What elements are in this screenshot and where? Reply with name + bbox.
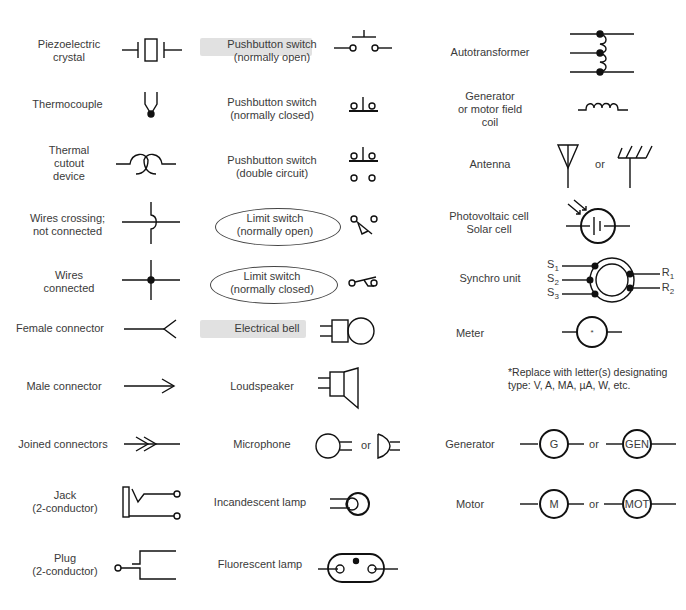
label-male-connector: Male connector bbox=[18, 380, 110, 393]
incandescent-lamp-icon bbox=[328, 490, 374, 518]
pushbutton-double-icon bbox=[348, 144, 382, 184]
label-photovoltaic-cell: Photovoltaic cell Solar cell bbox=[434, 210, 544, 236]
label-generator: Generator bbox=[440, 438, 500, 451]
label-motor: Motor bbox=[440, 498, 500, 511]
loudspeaker-icon bbox=[316, 366, 366, 410]
plug-icon bbox=[114, 548, 180, 582]
label-female-connector: Female connector bbox=[10, 322, 110, 335]
meter-footnote: *Replace with letter(s) designating type… bbox=[508, 366, 684, 392]
label-thermal-cutout: Thermal cutout device bbox=[30, 144, 108, 183]
label-pushbutton-nc: Pushbutton switch (normally closed) bbox=[222, 96, 322, 122]
limit-switch-no-icon bbox=[348, 212, 382, 240]
label-field-coil: Generator or motor field coil bbox=[440, 90, 540, 129]
label-jack: Jack (2-conductor) bbox=[25, 489, 105, 515]
label-pushbutton-double: Pushbutton switch (double circuit) bbox=[222, 154, 322, 180]
female-connector-icon bbox=[122, 318, 182, 340]
fluorescent-lamp-icon bbox=[316, 552, 400, 584]
label-wires-crossing: Wires crossing; not connected bbox=[20, 212, 115, 238]
thermocouple-icon bbox=[140, 90, 170, 122]
synchro-s3: S3 bbox=[546, 286, 560, 303]
generator-letter-long: GEN bbox=[624, 438, 650, 451]
or-text-antenna: or bbox=[590, 158, 610, 171]
or-text-microphone: or bbox=[356, 439, 376, 452]
label-fluorescent-lamp: Fluorescent lamp bbox=[210, 558, 310, 571]
thermal-cutout-icon bbox=[114, 150, 194, 180]
label-joined-connectors: Joined connectors bbox=[18, 438, 108, 451]
label-thermocouple: Thermocouple bbox=[20, 98, 115, 111]
autotransformer-icon bbox=[568, 28, 638, 80]
label-wires-connected: Wires connected bbox=[30, 269, 108, 295]
label-loudspeaker: Loudspeaker bbox=[222, 380, 302, 393]
wires-connected-icon bbox=[120, 258, 184, 302]
field-coil-icon bbox=[576, 98, 632, 114]
joined-connectors-icon bbox=[122, 434, 184, 454]
label-limit-switch-no: Limit switch (normally open) bbox=[225, 212, 325, 238]
label-limit-switch-nc: Limit switch (normally closed) bbox=[222, 270, 322, 296]
label-plug: Plug (2-conductor) bbox=[25, 552, 105, 578]
label-pushbutton-no: Pushbutton switch (normally open) bbox=[222, 38, 322, 64]
piezoelectric-crystal-icon bbox=[120, 36, 190, 66]
label-antenna: Antenna bbox=[440, 158, 540, 171]
pushbutton-no-icon bbox=[332, 28, 398, 58]
jack-icon bbox=[120, 484, 186, 520]
or-text-generator: or bbox=[584, 438, 604, 451]
motor-letter-long: MOT bbox=[623, 498, 651, 511]
meter-asterisk: * bbox=[586, 326, 598, 339]
synchro-unit-icon bbox=[556, 256, 668, 306]
limit-switch-nc-icon bbox=[348, 274, 382, 290]
photovoltaic-cell-icon bbox=[566, 200, 636, 246]
synchro-r2: R2 bbox=[660, 281, 676, 298]
generator-letter-short: G bbox=[544, 438, 564, 451]
label-autotransformer: Autotransformer bbox=[440, 46, 540, 59]
label-microphone: Microphone bbox=[222, 438, 302, 451]
pushbutton-nc-icon bbox=[348, 94, 382, 116]
label-meter: Meter bbox=[440, 327, 500, 340]
wires-crossing-icon bbox=[120, 200, 184, 246]
label-electrical-bell: Electrical bell bbox=[222, 322, 312, 335]
electrical-bell-icon bbox=[318, 316, 380, 346]
label-synchro-unit: Synchro unit bbox=[440, 272, 540, 285]
label-piezoelectric-crystal: Piezoelectric crystal bbox=[30, 38, 108, 64]
or-text-motor: or bbox=[584, 498, 604, 511]
motor-letter-short: M bbox=[544, 498, 564, 511]
male-connector-icon bbox=[122, 376, 182, 396]
label-incandescent-lamp: Incandescent lamp bbox=[210, 496, 310, 509]
